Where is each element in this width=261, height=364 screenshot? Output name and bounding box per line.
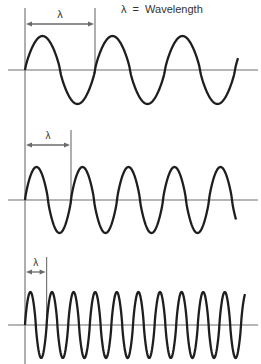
wavelength-label: λ: [33, 257, 38, 268]
wave-short-wavelength: λ: [8, 257, 258, 358]
wave-canvas: λλλ: [0, 0, 261, 364]
arrowhead-right-icon: [64, 142, 70, 147]
arrowhead-left-icon: [26, 21, 32, 26]
legend-equals: =: [133, 3, 139, 15]
arrowhead-right-icon: [88, 21, 94, 26]
arrowhead-left-icon: [26, 269, 32, 274]
waves-group: λλλ: [8, 8, 258, 358]
wave-long-wavelength: λ: [8, 8, 258, 104]
legend: λ = Wavelength: [121, 3, 203, 15]
legend-symbol: λ: [121, 3, 127, 15]
wavelength-label: λ: [46, 130, 51, 141]
wave-medium-wavelength: λ: [8, 130, 258, 233]
legend-text: Wavelength: [145, 3, 203, 15]
arrowhead-right-icon: [40, 269, 46, 274]
arrowhead-left-icon: [26, 142, 32, 147]
wavelength-label: λ: [57, 8, 63, 20]
